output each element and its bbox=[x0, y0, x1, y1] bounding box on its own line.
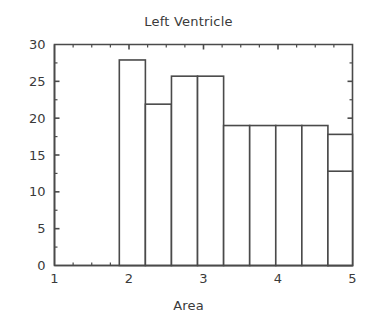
histogram-bar bbox=[198, 76, 224, 265]
x-tick-label: 3 bbox=[199, 271, 207, 286]
plot-canvas: 05101520253012345 bbox=[0, 0, 377, 330]
histogram-bar bbox=[119, 60, 145, 266]
x-tick-label: 5 bbox=[348, 271, 356, 286]
histogram-bar bbox=[250, 126, 276, 266]
y-tick-label: 30 bbox=[29, 37, 46, 52]
histogram-bar bbox=[145, 104, 171, 265]
y-tick-label: 10 bbox=[29, 184, 46, 199]
histogram-bar bbox=[224, 126, 250, 266]
histogram-bar bbox=[276, 126, 302, 266]
y-tick-label: 20 bbox=[29, 111, 46, 126]
histogram-bar bbox=[328, 171, 353, 265]
x-axis-label: Area bbox=[0, 298, 377, 313]
y-tick-label: 0 bbox=[37, 258, 45, 273]
x-tick-label: 1 bbox=[50, 271, 58, 286]
chart-figure: Left Ventricle 05101520253012345 Area bbox=[0, 0, 377, 330]
y-tick-label: 15 bbox=[29, 148, 46, 163]
histogram-bar bbox=[171, 76, 197, 265]
y-tick-label: 5 bbox=[37, 221, 45, 236]
x-tick-label: 4 bbox=[274, 271, 282, 286]
y-tick-label: 25 bbox=[29, 74, 46, 89]
histogram-bar bbox=[302, 126, 328, 266]
x-tick-label: 2 bbox=[125, 271, 133, 286]
